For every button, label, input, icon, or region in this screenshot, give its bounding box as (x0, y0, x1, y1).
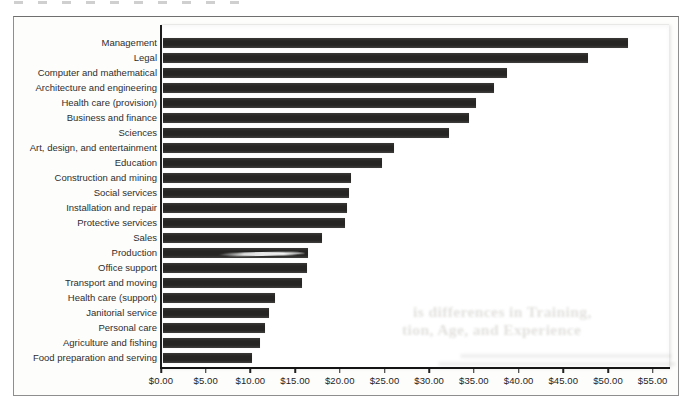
category-label: Health care (support) (14, 293, 161, 303)
wage-bar (163, 218, 345, 228)
chart-row: Sales (14, 230, 674, 245)
x-axis-tick-label: $35.00 (459, 375, 489, 386)
x-axis-tick-label: $15.00 (280, 375, 310, 386)
wage-bar (163, 98, 476, 108)
x-axis-tick-label: $50.00 (593, 375, 623, 386)
x-axis-tick-mark (518, 369, 520, 374)
chart-row: Construction and mining (14, 170, 674, 185)
page-bleedthrough-text: tion, Age, and Experience (402, 321, 581, 339)
bar-track (161, 80, 674, 95)
x-axis-tick-mark (339, 369, 341, 374)
chart-row: Computer and mathematical (14, 65, 674, 80)
chart-row: Transport and moving (14, 275, 674, 290)
wage-bar (163, 143, 394, 153)
category-label: Production (14, 248, 161, 258)
bar-track (161, 155, 674, 170)
x-axis-tick-label: $40.00 (504, 375, 534, 386)
chart-row: Production (14, 245, 674, 260)
category-label: Transport and moving (14, 278, 161, 288)
x-axis-tick-label: $20.00 (325, 375, 355, 386)
category-label: Protective services (14, 218, 161, 228)
bar-track (161, 110, 674, 125)
category-label: Management (14, 38, 161, 48)
wage-bar (163, 308, 269, 318)
x-axis-tick-label: $25.00 (370, 375, 400, 386)
category-label: Art, design, and entertainment (14, 143, 161, 153)
chart-row: Management (14, 35, 674, 50)
chart-row: Installation and repair (14, 200, 674, 215)
category-label: Health care (provision) (14, 98, 161, 108)
category-label: Construction and mining (14, 173, 161, 183)
bar-track (161, 215, 674, 230)
bar-track (161, 245, 674, 260)
wage-bar (163, 38, 628, 48)
category-label: Food preparation and serving (14, 353, 161, 363)
chart-row: Protective services (14, 215, 674, 230)
chart-row: Education (14, 155, 674, 170)
wage-bar (163, 128, 449, 138)
category-label: Sciences (14, 128, 161, 138)
wage-bar (163, 353, 252, 363)
x-axis-tick-label: $0.00 (149, 375, 173, 386)
wage-bar (163, 278, 302, 288)
x-axis-tick-mark (250, 369, 252, 374)
page-bleedthrough-smudge (438, 362, 676, 366)
category-label: Installation and repair (14, 203, 161, 213)
wage-bar (163, 68, 507, 78)
bar-track (161, 95, 674, 110)
x-axis-tick-mark (294, 369, 296, 374)
x-axis-tick-mark (384, 369, 386, 374)
bar-track (161, 35, 674, 50)
x-axis-tick-label: $30.00 (414, 375, 444, 386)
category-label: Sales (14, 233, 161, 243)
wage-bar (163, 233, 322, 243)
x-axis-tick-label: $10.00 (236, 375, 266, 386)
bar-track (161, 140, 674, 155)
chart-panel: ManagementLegalComputer and mathematical… (13, 16, 679, 396)
x-axis-tick-mark (428, 369, 430, 374)
page-bleedthrough-smudge (460, 354, 672, 358)
x-axis-tick-mark (563, 369, 565, 374)
x-axis-tick-mark (607, 369, 609, 374)
x-axis-tick-mark (160, 369, 162, 374)
x-axis-tick-label: $45.00 (548, 375, 578, 386)
wage-bar (163, 173, 351, 183)
bar-track (161, 125, 674, 140)
category-label: Business and finance (14, 113, 161, 123)
page-bleedthrough-text: is differences in Training, (413, 303, 592, 321)
x-axis-tick-label: $5.00 (194, 375, 218, 386)
bar-track (161, 200, 674, 215)
wage-bar (163, 113, 469, 123)
wage-bar (163, 203, 347, 213)
category-label: Janitorial service (14, 308, 161, 318)
wage-bar (163, 323, 265, 333)
bar-track (161, 275, 674, 290)
category-label: Personal care (14, 323, 161, 333)
bar-track (161, 260, 674, 275)
chart-row: Architecture and engineering (14, 80, 674, 95)
category-label: Office support (14, 263, 161, 273)
bar-track (161, 65, 674, 80)
bar-track (161, 50, 674, 65)
category-label: Legal (14, 53, 161, 63)
chart-row: Social services (14, 185, 674, 200)
x-axis-tick-mark (205, 369, 207, 374)
cropped-text-remnant (14, 1, 240, 4)
wage-bar (163, 158, 382, 168)
wage-bar (163, 338, 260, 348)
category-label: Agriculture and fishing (14, 338, 161, 348)
wage-bar (163, 263, 307, 273)
x-axis-tick-mark (473, 369, 475, 374)
x-axis-tick-mark (652, 369, 654, 374)
wage-bar (163, 83, 494, 93)
bar-track (161, 230, 674, 245)
wage-bar (163, 293, 275, 303)
category-label: Computer and mathematical (14, 68, 161, 78)
chart-row: Legal (14, 50, 674, 65)
x-axis-tick-label: $55.00 (638, 375, 668, 386)
chart-row: Health care (provision) (14, 95, 674, 110)
bar-track (161, 170, 674, 185)
bar-track (161, 185, 674, 200)
category-label: Social services (14, 188, 161, 198)
chart-row: Business and finance (14, 110, 674, 125)
